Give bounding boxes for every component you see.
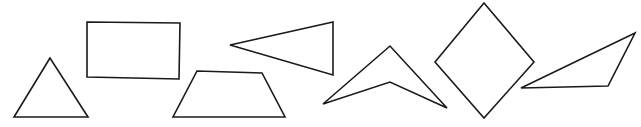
obtuse-triangle [521, 33, 635, 88]
rhombus [435, 3, 534, 118]
isosceles-triangle [14, 58, 88, 117]
acute-triangle [230, 22, 333, 75]
rectangle [87, 22, 180, 79]
shapes-svg [0, 0, 641, 127]
concave-quadrilateral [323, 46, 447, 108]
shapes-diagram [0, 0, 641, 127]
trapezoid [173, 71, 285, 117]
